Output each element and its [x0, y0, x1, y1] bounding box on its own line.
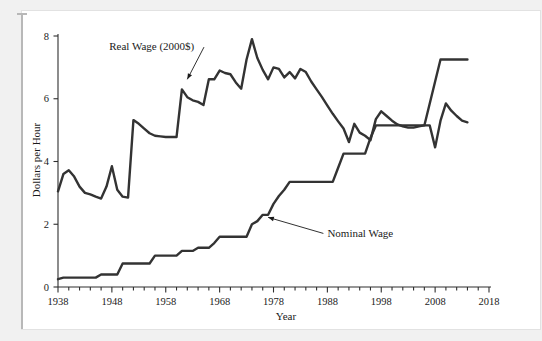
y-tick-label: 6	[44, 93, 49, 104]
y-tick-label: 4	[44, 156, 50, 167]
y-tick-labels: 02468	[44, 31, 50, 293]
annotation-arrowhead	[268, 217, 274, 221]
annotation-leader-line	[268, 217, 323, 233]
x-tick-label: 1978	[263, 296, 284, 307]
annotation-arrowhead	[187, 73, 192, 79]
axes-group	[58, 34, 491, 287]
x-tick-label: 1958	[155, 296, 176, 307]
y-tick-label: 8	[44, 31, 49, 42]
x-tick-label: 1988	[317, 296, 338, 307]
y-axis-title: Dollars per Hour	[30, 122, 42, 197]
x-tick-label: 2008	[425, 296, 446, 307]
wage-line-chart: 02468 1938194819581968197819881998200820…	[0, 0, 542, 341]
x-axis-title: Year	[276, 310, 297, 322]
series-line	[58, 60, 467, 280]
x-tick-label: 2018	[479, 296, 500, 307]
figure-root: 02468 1938194819581968197819881998200820…	[0, 0, 542, 341]
y-tick-label: 2	[44, 219, 49, 230]
y-tick-label: 0	[44, 282, 49, 293]
x-tick-label: 1948	[101, 296, 122, 307]
series-line	[58, 39, 467, 198]
series-annotation-label: Real Wage (2000$)	[109, 40, 194, 53]
x-tick-label: 1968	[209, 296, 230, 307]
x-tick-label: 1938	[48, 296, 69, 307]
series-lines	[58, 39, 467, 279]
x-tick-labels: 193819481958196819781988199820082018	[48, 296, 500, 307]
series-annotation-label: Nominal Wage	[327, 227, 393, 239]
x-tick-label: 1998	[371, 296, 392, 307]
